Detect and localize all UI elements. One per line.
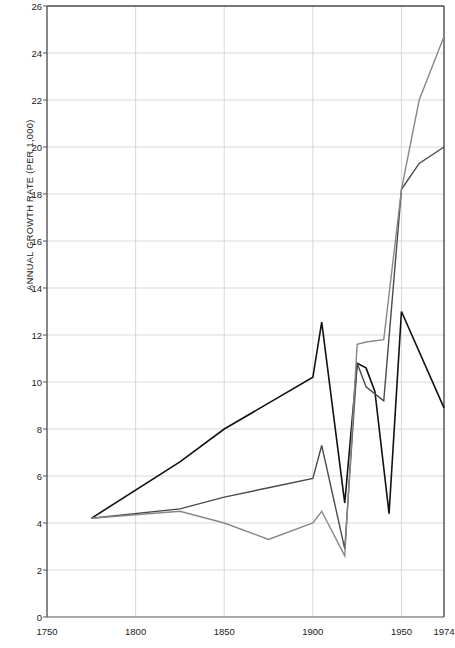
x-tick-label: 1950 xyxy=(391,626,412,637)
x-tick-label: 1900 xyxy=(302,626,323,637)
x-tick-label: 1974 xyxy=(433,626,454,637)
x-tick-label: 1750 xyxy=(36,626,57,637)
x-tick-label: 1800 xyxy=(125,626,146,637)
x-tick-label: 1850 xyxy=(214,626,235,637)
